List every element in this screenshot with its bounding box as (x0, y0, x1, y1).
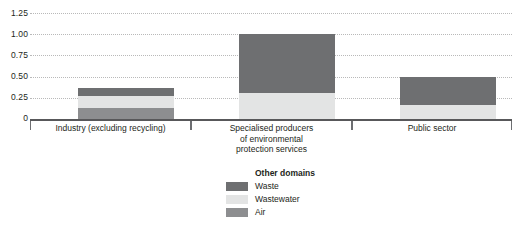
legend-swatch-wastewater (226, 195, 248, 204)
bar-public-sector (400, 77, 496, 119)
bar-segment-wastewater (400, 105, 496, 119)
bar-industry (78, 88, 174, 119)
bar-segment-waste (239, 34, 335, 93)
legend-swatch-waste (226, 182, 248, 191)
legend-item-waste: Waste (226, 180, 376, 193)
legend-item-air: Air (226, 206, 376, 219)
stacked-bar-chart: 1.25 1.00 0.75 0.50 0.25 0 (0, 0, 525, 228)
gridline-125 (30, 13, 512, 14)
category-label-line: Industry (excluding recycling) (30, 123, 191, 134)
y-tick-label: 0.75 (2, 51, 28, 60)
legend-swatch-other-domains (226, 169, 248, 178)
bar-segment-waste (78, 88, 174, 97)
y-axis: 1.25 1.00 0.75 0.50 0.25 0 (0, 0, 28, 228)
legend-swatch-air (226, 208, 248, 217)
legend-label: Other domains (255, 169, 315, 178)
category-label-line: protection services (191, 144, 352, 155)
category-label-line: Public sector (352, 123, 512, 134)
bar-segment-wastewater (78, 96, 174, 108)
bar-segment-waste (400, 77, 496, 105)
plot-area (30, 13, 512, 119)
legend-label: Air (255, 208, 265, 217)
legend-label: Waste (255, 182, 279, 191)
category-label-line: Specialised producers (191, 123, 352, 134)
bar-specialised-producers (239, 34, 335, 119)
legend-item-other-domains: Other domains (226, 167, 376, 180)
category-label-line: of environmental (191, 134, 352, 145)
y-tick-label: 0 (2, 114, 28, 123)
legend-label: Wastewater (255, 195, 300, 204)
y-tick-label: 0.25 (2, 93, 28, 102)
category-label-public: Public sector (352, 123, 512, 134)
category-label-industry: Industry (excluding recycling) (30, 123, 191, 134)
chart-legend: Other domains Waste Wastewater Air (226, 167, 376, 219)
y-tick-label: 0.50 (2, 72, 28, 81)
y-tick-label: 1.25 (2, 9, 28, 18)
bar-segment-air (78, 108, 174, 119)
y-tick-label: 1.00 (2, 30, 28, 39)
legend-item-wastewater: Wastewater (226, 193, 376, 206)
bar-segment-wastewater (239, 93, 335, 119)
category-label-specialised: Specialised producers of environmental p… (191, 123, 352, 155)
